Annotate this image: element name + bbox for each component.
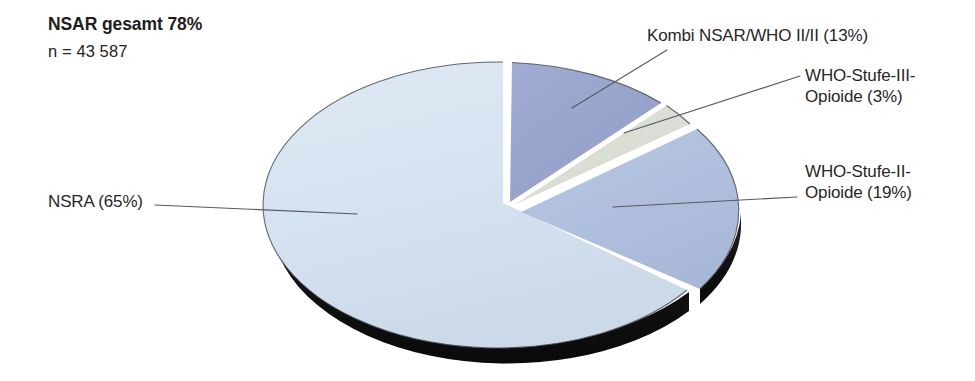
label-who3-line1: WHO-Stufe-III-: [805, 66, 915, 85]
pie-slices: [263, 62, 739, 348]
label-who2: WHO-Stufe-II- Opioide (19%): [805, 162, 912, 203]
label-who2-line1: WHO-Stufe-II-: [805, 162, 911, 181]
label-kombi: Kombi NSAR/WHO II/II (13%): [647, 26, 868, 47]
label-nsra: NSRA (65%): [48, 192, 143, 213]
label-who2-line2: Opioide (19%): [805, 183, 912, 204]
label-who3-line2: Opioide (3%): [805, 87, 915, 108]
label-who3: WHO-Stufe-III- Opioide (3%): [805, 66, 915, 107]
pie-chart-figure: NSAR gesamt 78% n = 43 587: [0, 0, 975, 381]
